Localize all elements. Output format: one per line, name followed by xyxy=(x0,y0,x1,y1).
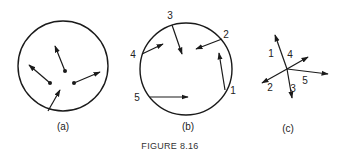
vector-arrow-3 xyxy=(172,25,182,54)
particle-dot xyxy=(72,81,76,85)
vector-number-label: 4 xyxy=(287,49,293,60)
panel-c: 12345 xyxy=(262,35,328,98)
vector-number-label: 3 xyxy=(167,10,173,21)
vector-number-label: 5 xyxy=(302,75,308,86)
vector-arrow xyxy=(29,65,50,83)
panel-b-label: (b) xyxy=(182,121,194,132)
particle-dot xyxy=(48,81,52,85)
vector-number-label: 2 xyxy=(223,29,229,40)
panel-b: 12345 xyxy=(130,10,236,115)
panel-c-label: (c) xyxy=(282,123,294,134)
vector-arrow-2 xyxy=(196,39,222,49)
figure-8-16: 12345 12345 (a) (b) (c) FIGURE 8.16 xyxy=(0,0,347,160)
vector-arrow xyxy=(74,72,100,83)
vector-number-label: 1 xyxy=(268,48,274,59)
panel-a xyxy=(18,21,108,111)
circle-boundary xyxy=(140,23,232,115)
vector-arrow xyxy=(48,90,60,111)
vector-number-label: 1 xyxy=(230,85,236,96)
vector-number-label: 5 xyxy=(134,92,140,103)
panel-a-label: (a) xyxy=(57,121,69,132)
vector-arrow xyxy=(55,46,65,71)
vector-number-label: 2 xyxy=(267,82,273,93)
figure-caption: FIGURE 8.16 xyxy=(141,141,198,151)
vector-number-label: 3 xyxy=(290,83,296,94)
vector-number-label: 4 xyxy=(130,49,136,60)
vector-arrow-1 xyxy=(219,53,225,90)
particle-dot xyxy=(63,69,67,73)
vector-arrow-5 xyxy=(287,69,328,74)
vector-arrow-2 xyxy=(262,69,287,83)
vector-arrow-1 xyxy=(275,35,287,69)
